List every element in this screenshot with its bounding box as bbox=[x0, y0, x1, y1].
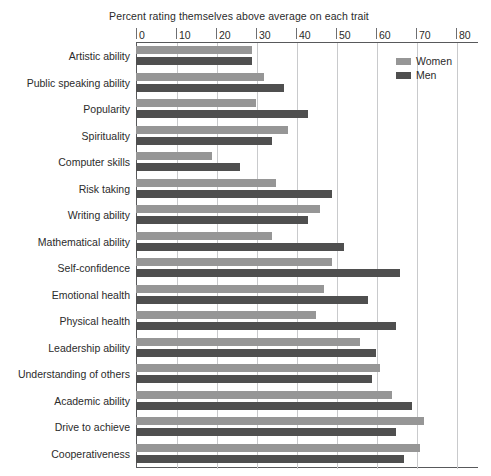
chart-row: Cooperativeness bbox=[136, 441, 478, 468]
chart-row: Drive to achieve bbox=[136, 414, 478, 441]
category-label: Risk taking bbox=[79, 183, 130, 195]
x-tick-label-80: 80 bbox=[456, 29, 471, 41]
x-tick-label-50: 50 bbox=[336, 29, 351, 41]
bar-men bbox=[136, 349, 376, 357]
x-tick-label-40: 40 bbox=[296, 29, 311, 41]
men-swatch-icon bbox=[396, 72, 411, 79]
category-label: Emotional health bbox=[52, 289, 130, 301]
bar-women bbox=[136, 391, 392, 399]
chart-row: Leadership ability bbox=[136, 335, 478, 362]
chart-row: Understanding of others bbox=[136, 361, 478, 388]
category-label: Mathematical ability bbox=[38, 236, 130, 248]
category-label: Drive to achieve bbox=[55, 421, 130, 433]
chart-title: Percent rating themselves above average … bbox=[0, 10, 478, 22]
chart-row: Computer skills bbox=[136, 149, 478, 176]
bar-men bbox=[136, 375, 372, 383]
bar-men bbox=[136, 296, 368, 304]
legend-label-men: Men bbox=[416, 70, 436, 81]
legend-label-women: Women bbox=[416, 56, 452, 67]
category-label: Leadership ability bbox=[48, 342, 130, 354]
chart-row: Writing ability bbox=[136, 202, 478, 229]
bar-women bbox=[136, 99, 256, 107]
bar-men bbox=[136, 322, 396, 330]
bar-women bbox=[136, 126, 288, 134]
category-label: Spirituality bbox=[82, 130, 130, 142]
bar-rows: Artistic abilityPublic speaking abilityP… bbox=[136, 43, 478, 468]
bar-men bbox=[136, 110, 308, 118]
chart-row: Physical health bbox=[136, 308, 478, 335]
chart-row: Popularity bbox=[136, 96, 478, 123]
category-label: Cooperativeness bbox=[51, 448, 130, 460]
category-label: Understanding of others bbox=[18, 368, 130, 380]
category-label: Artistic ability bbox=[69, 50, 130, 62]
category-label: Physical health bbox=[59, 315, 130, 327]
chart-row: Emotional health bbox=[136, 282, 478, 309]
bar-women bbox=[136, 417, 424, 425]
category-label: Public speaking ability bbox=[27, 77, 130, 89]
x-tick-label-30: 30 bbox=[256, 29, 271, 41]
bar-men bbox=[136, 57, 252, 65]
chart-row: Spirituality bbox=[136, 123, 478, 150]
category-label: Popularity bbox=[83, 103, 130, 115]
women-swatch-icon bbox=[396, 58, 411, 65]
bar-women bbox=[136, 311, 316, 319]
chart-row: Mathematical ability bbox=[136, 229, 478, 256]
category-label: Writing ability bbox=[68, 209, 130, 221]
bar-men bbox=[136, 455, 404, 463]
chart-row: Risk taking bbox=[136, 176, 478, 203]
bar-women bbox=[136, 338, 360, 346]
chart-legend: Women Men bbox=[396, 56, 452, 84]
legend-item-men: Men bbox=[396, 70, 452, 81]
bar-women bbox=[136, 179, 276, 187]
category-label: Computer skills bbox=[58, 156, 130, 168]
bar-chart: Percent rating themselves above average … bbox=[0, 0, 491, 476]
x-tick-label-0: 0 bbox=[136, 29, 145, 41]
x-tick-label-10: 10 bbox=[176, 29, 191, 41]
bar-women bbox=[136, 205, 320, 213]
bar-men bbox=[136, 190, 332, 198]
bar-women bbox=[136, 46, 252, 54]
x-tick-label-60: 60 bbox=[376, 29, 391, 41]
bar-women bbox=[136, 232, 272, 240]
x-tick-label-20: 20 bbox=[216, 29, 231, 41]
chart-row: Self-confidence bbox=[136, 255, 478, 282]
legend-item-women: Women bbox=[396, 56, 452, 67]
x-tick-label-70: 70 bbox=[416, 29, 431, 41]
bar-men bbox=[136, 402, 412, 410]
bar-women bbox=[136, 152, 212, 160]
category-label: Academic ability bbox=[54, 395, 130, 407]
bar-men bbox=[136, 163, 240, 171]
bar-women bbox=[136, 364, 380, 372]
bar-men bbox=[136, 243, 344, 251]
bar-men bbox=[136, 216, 308, 224]
bar-men bbox=[136, 269, 400, 277]
bar-men bbox=[136, 428, 396, 436]
bar-women bbox=[136, 73, 264, 81]
bar-women bbox=[136, 285, 324, 293]
bar-women bbox=[136, 444, 420, 452]
category-label: Self-confidence bbox=[58, 262, 130, 274]
bar-women bbox=[136, 258, 332, 266]
chart-row: Academic ability bbox=[136, 388, 478, 415]
bar-men bbox=[136, 137, 272, 145]
bar-men bbox=[136, 84, 284, 92]
